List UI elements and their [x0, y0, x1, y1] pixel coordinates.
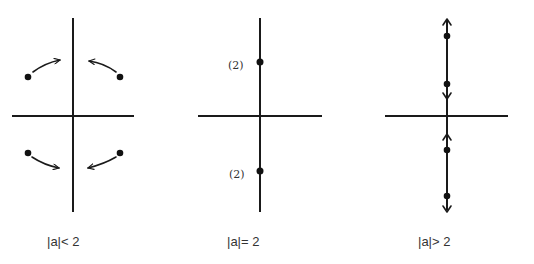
root-point-4: [444, 193, 451, 200]
double-root-lower: [257, 168, 264, 175]
root-point-2: [444, 81, 451, 88]
caption-less: |a|< 2: [47, 234, 79, 249]
arrow-lower-right-icon: [88, 157, 116, 168]
root-point-upper-left: [25, 74, 32, 81]
root-point-1: [444, 33, 451, 40]
arrow-upper-right-icon: [89, 61, 116, 72]
root-point-lower-right: [117, 150, 124, 157]
arrow-upper-left-icon: [33, 60, 60, 72]
root-point-lower-left: [25, 150, 32, 157]
multiplicity-label-lower: (2): [229, 168, 245, 181]
panel-equal-2: (2) (2) |a|= 2: [198, 18, 322, 249]
root-locus-figure: |a|< 2 (2) (2) |a|= 2 |a|> 2: [0, 0, 534, 264]
caption-equal: |a|= 2: [227, 234, 259, 249]
arrow-lower-left-icon: [32, 157, 59, 168]
double-root-upper: [257, 59, 264, 66]
root-point-3: [444, 147, 451, 154]
panel-greater-than-2: |a|> 2: [385, 19, 508, 249]
panel-less-than-2: |a|< 2: [12, 18, 134, 249]
multiplicity-label-upper: (2): [228, 59, 244, 72]
caption-greater: |a|> 2: [418, 234, 450, 249]
root-point-upper-right: [117, 74, 124, 81]
